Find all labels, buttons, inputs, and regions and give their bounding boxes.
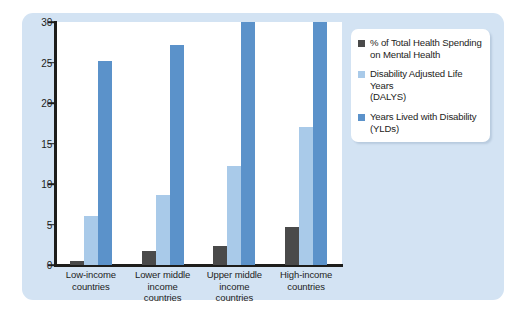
- x-axis-label-0: Low-incomecountries: [52, 269, 130, 292]
- bar-3-2: [313, 22, 327, 265]
- bar-3-1: [299, 127, 313, 265]
- legend-label-dalys: Disability Adjusted Life Years(DALYS): [370, 68, 483, 103]
- bar-1-1: [156, 195, 170, 265]
- y-axis-tick-mark: [48, 102, 55, 104]
- legend-swatch-icon-spending: [358, 40, 365, 47]
- x-axis-label-3: High-incomecountries: [267, 269, 345, 292]
- bar-2-1: [227, 166, 241, 265]
- legend-swatch-icon-ylds: [358, 114, 365, 121]
- bar-1-0: [142, 251, 156, 265]
- x-axis-label-1: Lower middleincomecountries: [124, 269, 202, 304]
- y-axis-tick-mark: [48, 183, 55, 185]
- y-axis-tick-mark: [48, 224, 55, 226]
- legend-item-ylds: Years Lived with Disability(YLDs): [358, 111, 483, 134]
- bar-1-2: [170, 45, 184, 265]
- legend-item-dalys: Disability Adjusted Life Years(DALYS): [358, 68, 483, 103]
- bar-0-0: [70, 261, 84, 265]
- y-axis-tick-mark: [48, 264, 55, 266]
- x-axis-label-2: Upper middleincomecountries: [196, 269, 274, 304]
- y-axis-tick-mark: [48, 143, 55, 145]
- legend-label-spending: % of Total Health Spendingon Mental Heal…: [370, 37, 482, 60]
- bar-2-2: [241, 22, 255, 265]
- legend-label-ylds: Years Lived with Disability(YLDs): [370, 111, 477, 134]
- y-axis-tick-mark: [48, 62, 55, 64]
- legend-swatch-icon-dalys: [358, 71, 365, 78]
- chart-legend: % of Total Health Spendingon Mental Heal…: [351, 29, 490, 142]
- legend-item-spending: % of Total Health Spendingon Mental Heal…: [358, 37, 483, 60]
- bar-0-1: [84, 216, 98, 265]
- bar-3-0: [285, 227, 299, 265]
- y-axis-tick-mark: [48, 21, 55, 23]
- bar-2-0: [213, 246, 227, 265]
- bar-0-2: [98, 61, 112, 265]
- chart-panel: 051015202530 Low-incomecountriesLower mi…: [22, 13, 504, 300]
